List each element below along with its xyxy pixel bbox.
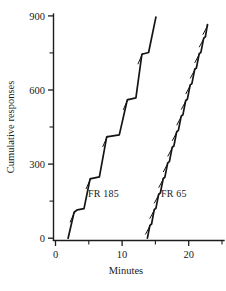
y-tick-label-300: 300 (29, 159, 45, 170)
series-fr185-line (68, 17, 156, 238)
figure-caption-strip (0, 281, 226, 291)
series-fr65 (146, 25, 208, 239)
x-tick-label-10: 10 (117, 249, 128, 260)
y-tick-label-900: 900 (29, 11, 45, 22)
x-tick-label-20: 20 (183, 249, 194, 260)
series-fr185 (68, 17, 156, 238)
x-axis-major-ticks (56, 241, 189, 247)
series-fr65-reinforcement-pips (146, 25, 208, 234)
chart-canvas: 0 300 600 900 0 10 20 Minutes Cumulative… (0, 0, 226, 291)
series-label-fr65: FR 65 (161, 188, 187, 199)
cumulative-record-figure: 0 300 600 900 0 10 20 Minutes Cumulative… (0, 0, 226, 291)
x-tick-label-0: 0 (53, 249, 58, 260)
y-tick-label-600: 600 (29, 85, 45, 96)
y-tick-label-0: 0 (40, 233, 45, 244)
series-label-fr185: FR 185 (88, 188, 119, 199)
x-axis-title: Minutes (109, 265, 143, 276)
y-axis-title: Cumulative responses (5, 81, 16, 173)
